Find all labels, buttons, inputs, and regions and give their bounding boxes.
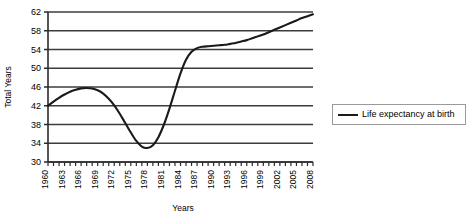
y-axis-tick-label: 30 (31, 157, 41, 167)
y-axis-tick-label: 58 (31, 26, 41, 36)
x-axis-tick-label: 1963 (57, 170, 67, 189)
x-axis-tick-label: 1996 (239, 170, 249, 189)
y-axis-tick-label: 62 (31, 7, 41, 17)
chart-legend: Life expectancy at birth (332, 104, 466, 125)
x-axis-title: Years (172, 203, 193, 213)
x-axis-tick-label: 1960 (40, 170, 50, 189)
x-axis-tick-label: 1969 (90, 170, 100, 189)
x-axis-tick-label: 1975 (123, 170, 133, 189)
series-line-life-expectancy (48, 14, 313, 148)
x-axis-tick-label: 1984 (173, 170, 183, 189)
y-axis-tick-label: 54 (31, 45, 41, 55)
y-axis-tick-label: 46 (31, 82, 41, 92)
y-axis-tick-label: 34 (31, 138, 41, 148)
x-axis-tick-label: 1966 (73, 170, 83, 189)
x-axis-tick-label: 1987 (189, 170, 199, 189)
x-axis-tick-label: 1972 (106, 170, 116, 189)
x-axis-tick-label: 2002 (272, 170, 282, 189)
x-axis-tick-label: 2005 (288, 170, 298, 189)
legend-label-life-expectancy: Life expectancy at birth (362, 110, 455, 119)
legend-line-swatch (338, 114, 358, 116)
x-axis-tick-label: 1993 (222, 170, 232, 189)
y-axis-tick-label: 38 (31, 120, 41, 130)
x-axis-tick-labels: 1960196319661969197219751978198119841987… (40, 170, 315, 189)
line-chart: 303438424650545862 196019631966196919721… (0, 0, 472, 221)
y-axis-tick-label: 50 (31, 63, 41, 73)
x-axis-tick-label: 1978 (139, 170, 149, 189)
x-axis-tick-label: 1981 (156, 170, 166, 189)
y-axis-tick-label: 42 (31, 101, 41, 111)
y-axis-title: Total Years (3, 66, 13, 108)
x-axis-tick-label: 2008 (305, 170, 315, 189)
x-axis-tick-label: 1999 (255, 170, 265, 189)
y-axis-tick-labels: 303438424650545862 (31, 7, 41, 167)
x-axis-tick-label: 1990 (206, 170, 216, 189)
